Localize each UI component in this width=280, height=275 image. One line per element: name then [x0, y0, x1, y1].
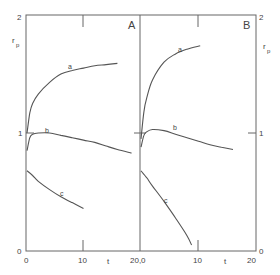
y-tick-0-right: 0 — [259, 247, 264, 256]
x-axis-label-a: t — [107, 257, 110, 266]
curve-label-b-panel-a: b — [45, 127, 49, 134]
x-tick-10-b: 10 — [193, 256, 202, 265]
y-tick-0-left: 0 — [17, 247, 22, 256]
curve-label-a-panel-b: a — [178, 46, 182, 53]
figure: 2 1 0 r p 2 1 0 r p 0 10 t 20,0 10 t 20 … — [0, 0, 280, 275]
y-tick-1-right: 1 — [259, 129, 264, 138]
curve-label-c-panel-b: c — [164, 197, 168, 204]
y-axis-label-right: r — [263, 42, 266, 51]
y-tick-2-left: 2 — [17, 13, 22, 22]
curve-c-panel-a — [27, 171, 84, 209]
y-tick-1-left: 1 — [18, 129, 23, 138]
curve-label-b-panel-b: b — [173, 124, 177, 131]
x-tick-0: 0 — [24, 256, 29, 265]
curve-label-a-panel-a: a — [68, 63, 72, 70]
x-axis-label-b: t — [224, 257, 227, 266]
curve-c-panel-b — [141, 171, 192, 245]
curve-a-panel-b — [141, 46, 200, 139]
panel-label-a: A — [128, 19, 136, 31]
curve-a-panel-a — [27, 63, 117, 133]
y-axis-sub-right: p — [267, 48, 271, 54]
x-tick-20-0: 20,0 — [130, 256, 146, 265]
panel-label-b: B — [243, 19, 250, 31]
curves — [27, 46, 233, 245]
plot-frame — [26, 15, 256, 251]
y-axis-sub-left: p — [16, 42, 20, 48]
y-tick-2-right: 2 — [259, 13, 264, 22]
curve-label-c-panel-a: c — [60, 190, 64, 197]
x-tick-20: 20 — [247, 256, 256, 265]
y-axis-label-left: r — [12, 36, 15, 45]
curve-b-panel-a — [27, 133, 132, 153]
x-tick-10-a: 10 — [78, 256, 87, 265]
curve-b-panel-b — [141, 129, 233, 149]
